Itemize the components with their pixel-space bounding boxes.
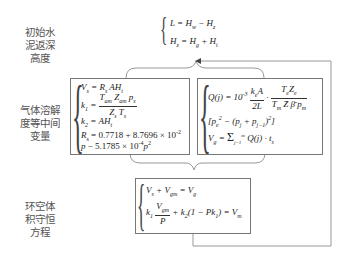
- equation-L: L = Hw − Hz: [170, 18, 215, 32]
- annulus-volume-box: { Vs + Vgm = Vg k1 VgmP + k2(1 − Pk1) = …: [135, 178, 251, 234]
- left-brace-icon: {: [160, 11, 167, 47]
- label-initial-cement-return-height: 初始水 泥返深 高度: [18, 26, 62, 65]
- gas-solubility-box: { Vs = Rs AHt k1 = Tam Zam psZs Ts k2 = …: [70, 78, 190, 155]
- label-line: 方程: [18, 226, 62, 239]
- label-gas-solubility-variables: 气体溶解 度等中间 变量: [14, 104, 66, 143]
- equation-Rs-cont: p − 5.1785 × 10-4p2: [81, 138, 151, 151]
- label-line: 气体溶解: [14, 104, 66, 117]
- label-line: 高度: [18, 52, 62, 65]
- label-line: 度等中间: [14, 117, 66, 130]
- equation-volume-balance: k1 VgmP + k2(1 − Pk1) = Vm: [146, 201, 242, 226]
- formula-flow-diagram: 初始水 泥返深 高度 气体溶解 度等中间 变量 环空体 积守恒 方程 { L =…: [0, 0, 344, 259]
- label-line: 环空体: [18, 200, 62, 213]
- left-brace-icon: {: [137, 174, 145, 236]
- label-line: 变量: [14, 130, 66, 143]
- equation-Qj-cont: [pe2 − (pj + pj−1)2]: [208, 113, 275, 130]
- label-annulus-volume-conservation: 环空体 积守恒 方程: [18, 200, 62, 239]
- top-equation-group: { L = Hw − Hz Hz = Hg + Ht: [160, 14, 230, 50]
- label-line: 初始水: [18, 26, 62, 39]
- equation-Qj: Q(j) = 10-3 keA2L · TeZeTm Z̄ β̄ pm: [208, 84, 307, 113]
- equation-Hz: Hz = Hg + Ht: [170, 36, 218, 50]
- label-line: 泥返深: [18, 39, 62, 52]
- gas-flow-box: { Q(j) = 10-3 keA2L · TeZeTm Z̄ β̄ pm [p…: [197, 78, 323, 155]
- equation-volume-sum: Vs + Vgm = Vg: [146, 185, 196, 199]
- equation-Vg: Vg = Σj=1m Q(j) · ts: [208, 131, 274, 148]
- label-line: 积守恒: [18, 213, 62, 226]
